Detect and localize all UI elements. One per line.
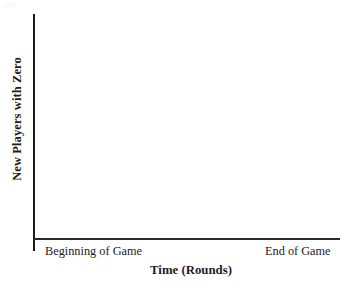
chart-figure: New Players with Zero Beginning of Game … (0, 0, 356, 294)
x-axis-tick-label-left: Beginning of Game (45, 244, 142, 259)
x-axis-label: Time (Rounds) (0, 263, 356, 278)
x-axis-line (33, 238, 340, 240)
y-axis-line (33, 14, 35, 251)
y-axis-label: New Players with Zero (10, 19, 25, 219)
plot-area (35, 14, 340, 238)
scan-artifact (3, 2, 17, 8)
x-axis-tick-label-right: End of Game (265, 244, 331, 259)
